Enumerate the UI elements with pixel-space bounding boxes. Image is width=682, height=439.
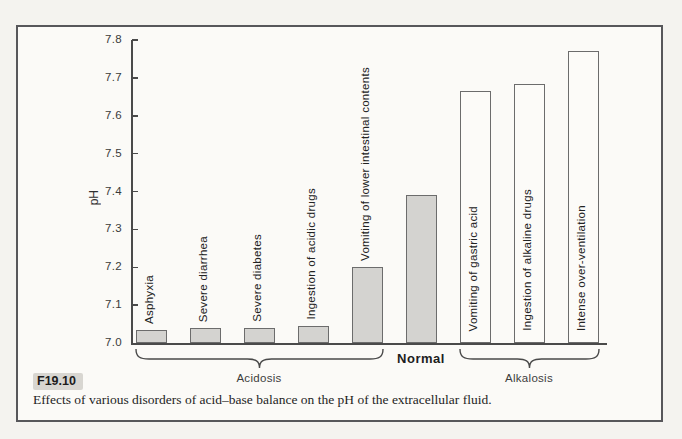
bar-label-severe-diarrhea: Severe diarrhea — [198, 236, 210, 322]
y-tick-7-5 — [132, 153, 138, 155]
figure-caption-block: F19.10 Effects of various disorders of a… — [33, 371, 633, 408]
bar-label-ingestion-of-acidic-drugs: Ingestion of acidic drugs — [306, 188, 318, 320]
bar-chart: 7.07.17.27.37.47.57.67.77.8pHAsphyxiaSev… — [18, 27, 661, 420]
y-tick-7-7 — [132, 77, 138, 79]
y-tick-label: 7.7 — [74, 71, 122, 83]
y-tick-label: 7.2 — [74, 260, 122, 272]
y-axis-title: pH — [88, 190, 100, 205]
bar-label-ingestion-of-alkaline-drugs: Ingestion of alkaline drugs — [522, 189, 534, 331]
bar-asphyxia — [136, 330, 167, 343]
bar-severe-diabetes — [244, 328, 275, 343]
x-axis-line — [131, 343, 607, 345]
y-tick-7-6 — [132, 115, 138, 117]
y-tick-label: 7.8 — [74, 33, 122, 45]
y-tick-label: 7.3 — [74, 222, 122, 234]
bar-label-severe-diabetes: Severe diabetes — [252, 234, 264, 322]
brace-path-acidosis — [135, 348, 384, 370]
brace-alkalosis — [459, 348, 600, 370]
bar-label-asphyxia: Asphyxia — [144, 275, 156, 324]
y-tick-label: 7.0 — [74, 336, 122, 348]
figure-number: F19.10 — [33, 373, 83, 390]
brace-acidosis — [135, 348, 384, 370]
bar-normal — [406, 195, 437, 343]
bar-severe-diarrhea — [190, 328, 221, 343]
y-tick-label: 7.5 — [74, 147, 122, 159]
bar-label-normal: Normal — [376, 351, 466, 366]
y-tick-7-3 — [132, 229, 138, 231]
figure-frame: 7.07.17.27.37.47.57.67.77.8pHAsphyxiaSev… — [16, 25, 663, 422]
figure-caption-text: Effects of various disorders of acid–bas… — [33, 392, 633, 408]
bar-label-intense-over-ventilation: Intense over-ventilation — [576, 205, 588, 331]
brace-path-alkalosis — [459, 348, 600, 370]
bar-label-vomiting-of-lower-intestinal-contents: Vomiting of lower intestinal contents — [360, 67, 372, 261]
y-tick-label: 7.6 — [74, 109, 122, 121]
y-tick-7-4 — [132, 191, 138, 193]
y-tick-7-8 — [132, 39, 138, 41]
page: { "caption": { "figure_label": "F19.10",… — [0, 0, 682, 439]
y-tick-7-2 — [132, 267, 138, 269]
y-tick-7-1 — [132, 304, 138, 306]
bar-vomiting-of-lower-intestinal-contents — [352, 267, 383, 343]
bar-ingestion-of-acidic-drugs — [298, 326, 329, 343]
bar-label-vomiting-of-gastric-acid: Vomiting of gastric acid — [468, 206, 480, 331]
y-tick-label: 7.1 — [74, 298, 122, 310]
